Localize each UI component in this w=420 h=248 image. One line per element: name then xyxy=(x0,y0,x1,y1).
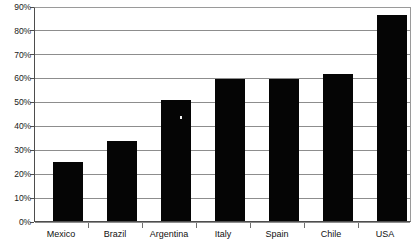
y-tick-label: 60% xyxy=(0,74,31,83)
category-label-spain: Spain xyxy=(250,229,304,240)
category-tick xyxy=(250,223,251,228)
y-tick-label: 30% xyxy=(0,146,31,155)
category-tick xyxy=(142,223,143,228)
category-label-brazil: Brazil xyxy=(88,229,142,240)
category-label-italy: Italy xyxy=(196,229,250,240)
bar-brazil[interactable] xyxy=(107,141,137,221)
bar-mexico[interactable] xyxy=(53,162,83,221)
plot-area xyxy=(34,7,411,222)
y-tick-mark xyxy=(30,222,34,223)
y-tick-label: 20% xyxy=(0,170,31,179)
bar-chile[interactable] xyxy=(323,74,353,221)
y-tick-label: 90% xyxy=(0,3,31,12)
bar-spain[interactable] xyxy=(269,79,299,221)
bar-italy[interactable] xyxy=(215,79,245,221)
bar-usa[interactable] xyxy=(377,15,407,221)
category-label-usa: USA xyxy=(358,229,412,240)
category-tick xyxy=(196,223,197,228)
y-tick-label: 50% xyxy=(0,98,31,107)
bar-argentina[interactable] xyxy=(161,100,191,221)
bar-chart: 90% 80% 70% 60% 50% 40% 30% 20% 10% 0% xyxy=(0,0,420,248)
y-tick-label: 70% xyxy=(0,51,31,60)
gridline xyxy=(35,222,410,223)
category-label-mexico: Mexico xyxy=(34,229,88,240)
y-tick-label: 10% xyxy=(0,194,31,203)
y-tick-label: 0% xyxy=(0,218,31,227)
category-tick xyxy=(304,223,305,228)
category-tick xyxy=(88,223,89,228)
render-artifact xyxy=(180,116,182,119)
category-label-argentina: Argentina xyxy=(142,229,196,240)
category-tick xyxy=(358,223,359,228)
y-tick-label: 80% xyxy=(0,27,31,36)
category-label-chile: Chile xyxy=(304,229,358,240)
y-tick-label: 40% xyxy=(0,122,31,131)
bars-layer xyxy=(35,8,410,221)
